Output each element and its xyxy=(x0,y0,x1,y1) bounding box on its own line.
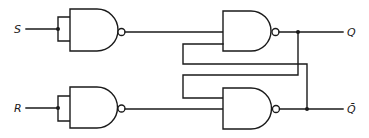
sr-latch-diagram: S Q R Q̄ xyxy=(0,0,369,138)
inversion-bubble-3 xyxy=(118,105,125,112)
inversion-bubble-4 xyxy=(273,106,280,113)
nand-gate-4 xyxy=(223,88,272,129)
inversion-bubble-2 xyxy=(272,29,279,36)
inversion-bubble-1 xyxy=(118,29,125,36)
nand-gate-2 xyxy=(223,11,271,51)
junction-dot-s xyxy=(56,27,60,31)
output-label-qbar: Q̄ xyxy=(347,103,356,116)
output-label-q: Q xyxy=(347,26,356,39)
junction-dot-qbar xyxy=(305,107,309,111)
nand-gate-3 xyxy=(70,87,117,128)
junction-dot-r xyxy=(56,106,60,110)
input-label-r: R xyxy=(14,102,22,115)
input-label-s: S xyxy=(14,23,21,36)
nand-gate-1 xyxy=(70,9,118,51)
